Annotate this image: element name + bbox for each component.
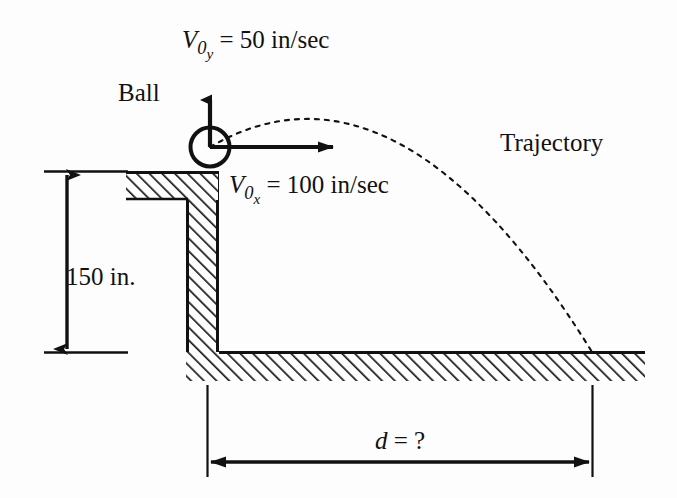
velocity-y-label: V0y = 50 in/sec (182, 27, 329, 61)
velocity-x-label: V0x = 100 in/sec (229, 172, 389, 206)
velocity-x-subscript-axis: x (254, 189, 261, 206)
ledge-hatched-region (126, 171, 219, 200)
ball-label: Ball (118, 80, 160, 105)
velocity-x-subscript-zero: 0 (244, 183, 253, 203)
trajectory-label: Trajectory (500, 130, 603, 155)
velocity-y-subscript: 0y (197, 38, 213, 58)
distance-label: d = ? (375, 428, 425, 453)
ground-hatched-region (186, 352, 645, 381)
velocity-x-symbol: V (229, 171, 244, 198)
velocity-y-symbol: V (182, 26, 197, 53)
velocity-x-subscript: 0x (244, 183, 260, 203)
distance-value: = ? (394, 427, 425, 454)
velocity-y-value: = 50 in/sec (220, 26, 330, 53)
diagram-canvas (0, 0, 677, 498)
velocity-y-subscript-zero: 0 (197, 38, 206, 58)
velocity-x-value: = 100 in/sec (267, 171, 389, 198)
wall-column-hatched-region (186, 171, 219, 381)
velocity-y-subscript-axis: y (207, 44, 214, 61)
distance-symbol: d (375, 427, 388, 454)
height-label: 150 in. (66, 264, 135, 289)
projectile-diagram: Ball Trajectory 150 in. V0y = 50 in/sec … (0, 0, 677, 498)
